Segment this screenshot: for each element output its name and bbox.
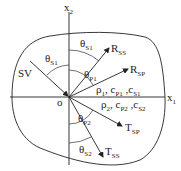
lower-medium-properties: ρ2, cP2 ,cS2 (101, 98, 146, 113)
domain-boundary (12, 32, 165, 165)
r-ss-label: RSS (111, 42, 126, 57)
theta-s1-incident-label: θS1 (45, 52, 58, 67)
theta-s1-reflected-arc (69, 50, 99, 61)
t-sp-label: TSP (125, 121, 140, 136)
upper-medium-properties: ρ1, cP1 ,cS1 (96, 83, 141, 98)
r-sp-label: RSP (130, 63, 145, 78)
t-ss-label: TSS (105, 145, 120, 160)
wave-reflection-diagram: x1 x2 o SV RSS RSP TSP TSS θS1 θS1 θP1 θ… (0, 0, 181, 171)
sv-label: SV (18, 67, 32, 79)
theta-s2-label: θS2 (79, 143, 92, 158)
x1-label: x1 (167, 91, 177, 106)
x2-label: x2 (64, 1, 74, 16)
origin-label: o (57, 96, 63, 108)
theta-s1-reflected-label: θS1 (80, 37, 93, 52)
theta-p2-label: θP2 (78, 112, 91, 127)
